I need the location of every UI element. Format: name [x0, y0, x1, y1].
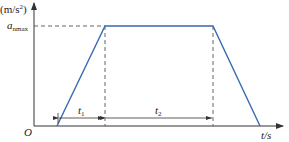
- origin-label: O: [24, 126, 32, 138]
- t1-label: t1: [78, 104, 85, 118]
- t2-label: t2: [155, 104, 162, 118]
- acceleration-diagram: (m/s2) anmax O t/s t1 t2: [0, 0, 289, 142]
- max-acceleration-label: anmax: [7, 19, 29, 33]
- y-axis-unit-label: (m/s2): [0, 3, 27, 16]
- x-axis-label: t/s: [261, 129, 271, 141]
